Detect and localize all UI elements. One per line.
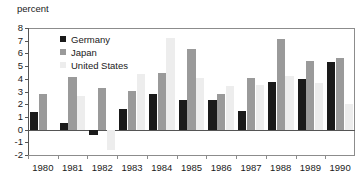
bar-japan-1982 [98,88,106,130]
y-tick-label: 2 [18,99,23,109]
x-axis-line [28,155,355,156]
x-tick-label: 1981 [62,162,83,173]
x-tick-mark [147,155,148,159]
legend-label: Japan [71,47,97,58]
bar-japan-1983 [128,91,136,130]
x-tick-mark [206,155,207,159]
bar-germany-1982 [89,130,97,135]
bar-chart: percent 876543210-1-2 198019811982198319… [0,0,363,186]
y-tick-mark [25,117,28,118]
bar-japan-1988 [277,39,285,129]
bar-germany-1985 [179,100,187,130]
y-tick-label: -2 [15,150,23,160]
x-tick-label: 1983 [121,162,142,173]
y-tick-label: 1 [18,112,23,122]
x-tick-label: 1985 [181,162,202,173]
x-tick-label: 1990 [330,162,351,173]
x-tick-mark [87,155,88,159]
y-tick-mark [25,53,28,54]
legend-label: United States [71,60,128,71]
x-tick-label: 1989 [300,162,321,173]
x-tick-label: 1982 [92,162,113,173]
y-tick-mark [25,28,28,29]
legend-item-united-states: United States [60,59,128,71]
x-tick-mark [266,155,267,159]
bar-united-states-1985 [196,78,204,130]
y-tick-label: 8 [18,23,23,33]
bar-japan-1990 [336,58,344,129]
x-tick-label: 1980 [32,162,53,173]
y-tick-mark [25,92,28,93]
y-tick-mark [25,130,28,131]
chart-legend: GermanyJapanUnited States [60,33,128,72]
y-tick-label: -1 [15,137,23,147]
bar-germany-1983 [119,109,127,129]
x-tick-label: 1987 [240,162,261,173]
bar-germany-1984 [149,94,157,130]
legend-swatch-icon [60,36,66,42]
bar-japan-1989 [306,61,314,130]
bar-germany-1980 [30,112,38,130]
y-tick-label: 7 [18,36,23,46]
bar-united-states-1987 [256,85,264,129]
bar-japan-1987 [247,78,255,130]
y-axis-line [28,28,29,155]
bar-united-states-1982 [107,130,115,150]
bar-germany-1981 [60,123,68,130]
x-tick-mark [296,155,297,159]
x-tick-label: 1988 [270,162,291,173]
x-tick-label: 1984 [151,162,172,173]
y-tick-label: 4 [18,74,23,84]
bar-united-states-1990 [345,104,353,130]
bar-united-states-1984 [166,38,174,129]
y-tick-mark [25,104,28,105]
x-tick-label: 1986 [211,162,232,173]
legend-swatch-icon [60,62,66,68]
bar-united-states-1983 [137,74,145,130]
x-tick-mark [325,155,326,159]
bar-united-states-1981 [77,96,85,130]
bar-germany-1990 [327,62,335,129]
y-tick-label: 3 [18,87,23,97]
bar-germany-1988 [268,82,276,130]
y-tick-label: 5 [18,61,23,71]
x-tick-mark [58,155,59,159]
x-tick-mark [117,155,118,159]
y-tick-mark [25,142,28,143]
legend-swatch-icon [60,49,66,55]
bar-japan-1986 [217,94,225,130]
bar-japan-1984 [158,73,166,130]
legend-item-germany: Germany [60,33,128,45]
zero-baseline [28,130,355,131]
bar-united-states-1989 [315,83,323,130]
y-tick-mark [25,66,28,67]
y-tick-label: 0 [18,125,23,135]
x-tick-mark [28,155,29,159]
bar-japan-1980 [39,94,47,130]
plot-frame-right-border [354,28,355,155]
bar-japan-1985 [187,49,195,130]
y-tick-mark [25,79,28,80]
bar-japan-1981 [68,77,76,130]
plot-frame-top-border [28,28,355,29]
bar-germany-1986 [208,100,216,130]
x-tick-mark [177,155,178,159]
y-tick-label: 6 [18,48,23,58]
bar-united-states-1988 [285,76,293,129]
bar-germany-1987 [238,111,246,129]
x-tick-mark [236,155,237,159]
legend-item-japan: Japan [60,46,128,58]
y-tick-mark [25,41,28,42]
bar-united-states-1986 [226,86,234,129]
bar-germany-1989 [298,79,306,129]
legend-label: Germany [71,34,110,45]
y-axis-unit-label: percent [17,3,49,14]
